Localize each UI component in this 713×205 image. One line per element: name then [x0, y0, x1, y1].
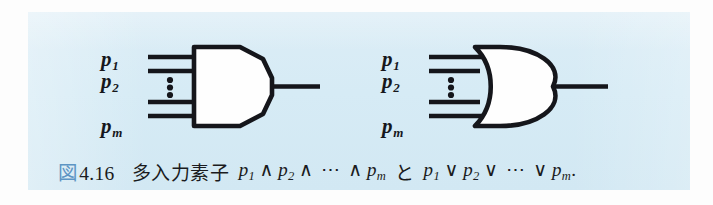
or-gate-group — [429, 47, 608, 126]
and-input-label-pm: pm — [101, 116, 122, 139]
figure-kanji-label: 図 — [58, 163, 78, 184]
and-input-ellipsis — [167, 77, 173, 98]
figure-number-value: 4.16 — [79, 163, 114, 184]
formula-conjunction: p1∧p2∧⋯∧pm — [239, 158, 387, 184]
figure-panel: .wire { stroke: #15161b; stroke-width: 4… — [28, 12, 690, 190]
figure-caption: 図4.16 多入力素子 p1∧p2∧⋯∧pm と p1∨p2∨⋯∨pm. — [58, 154, 678, 188]
gates-svg: .wire { stroke: #15161b; stroke-width: 4… — [28, 12, 690, 152]
caption-period: . — [571, 159, 576, 180]
and-gate-body — [194, 47, 272, 126]
figure-number: 図4.16 — [58, 157, 115, 186]
or-input-ellipsis — [448, 77, 454, 98]
and-gate-group — [148, 47, 320, 126]
or-input-label-p2: p2 — [382, 71, 400, 94]
or-input-label-pm: pm — [382, 116, 403, 139]
caption-japanese-text: 多入力素子 — [132, 158, 230, 185]
or-gate-body — [475, 47, 555, 126]
and-input-label-p2: p2 — [101, 71, 119, 94]
formula-disjunction: p1∨p2∨⋯∨pm. — [424, 158, 577, 184]
caption-conjunction-word: と — [395, 158, 414, 185]
logic-gate-diagram: .wire { stroke: #15161b; stroke-width: 4… — [28, 12, 690, 152]
figure-root: .wire { stroke: #15161b; stroke-width: 4… — [0, 0, 713, 205]
